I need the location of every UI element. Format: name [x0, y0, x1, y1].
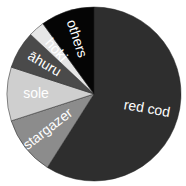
pie-label-sole: sole [23, 85, 49, 101]
pie-chart: red codstargazersoleāhuruhokiothers [0, 0, 186, 186]
